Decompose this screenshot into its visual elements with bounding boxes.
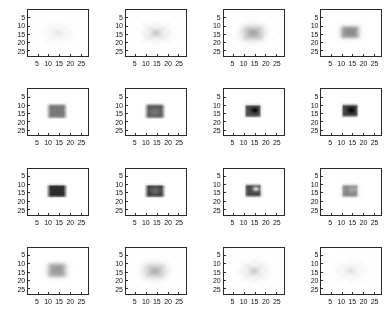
x-tick-mark	[363, 54, 364, 56]
image-panel: 510152025510152025	[293, 0, 391, 79]
y-tick-mark	[224, 42, 226, 43]
y-tick-label: 15	[213, 110, 221, 117]
y-axis-tick-labels: 510152025	[2, 88, 25, 136]
x-tick-label: 10	[44, 139, 52, 146]
axes: 510152025510152025	[223, 168, 285, 216]
x-tick-label: 15	[349, 60, 357, 67]
axes: 510152025510152025	[125, 247, 187, 295]
x-tick-mark	[265, 133, 266, 135]
x-tick-label: 10	[240, 298, 248, 305]
axes-frame	[320, 88, 382, 136]
x-tick-label: 10	[142, 298, 150, 305]
axes: 510152025510152025	[223, 247, 285, 295]
axes-frame	[125, 247, 187, 295]
y-tick-label: 20	[17, 197, 25, 204]
y-tick-mark	[224, 184, 226, 185]
x-tick-label: 20	[164, 139, 172, 146]
x-tick-mark	[168, 213, 169, 215]
x-tick-mark	[276, 292, 277, 294]
axes: 510152025510152025	[320, 9, 382, 57]
y-tick-label: 20	[115, 197, 123, 204]
y-tick-mark	[321, 184, 323, 185]
y-tick-mark	[126, 26, 128, 27]
x-axis-tick-labels: 510152025	[320, 57, 382, 71]
x-tick-mark	[331, 133, 332, 135]
heatmap-image	[224, 169, 284, 215]
y-tick-label: 15	[311, 30, 319, 37]
y-tick-mark	[28, 184, 30, 185]
y-tick-mark	[126, 130, 128, 131]
x-tick-label: 5	[328, 298, 332, 305]
y-tick-mark	[28, 17, 30, 18]
y-tick-mark	[28, 192, 30, 193]
y-tick-mark	[224, 50, 226, 51]
y-tick-mark	[126, 288, 128, 289]
x-tick-mark	[81, 133, 82, 135]
x-tick-label: 10	[240, 219, 248, 226]
y-tick-label: 20	[213, 277, 221, 284]
y-tick-mark	[321, 272, 323, 273]
y-tick-label: 20	[17, 277, 25, 284]
y-tick-mark	[224, 201, 226, 202]
y-tick-label: 15	[213, 30, 221, 37]
x-tick-mark	[135, 133, 136, 135]
axes: 510152025510152025	[320, 88, 382, 136]
y-tick-label: 5	[119, 172, 123, 179]
y-tick-mark	[321, 113, 323, 114]
y-tick-mark	[126, 209, 128, 210]
x-tick-mark	[363, 133, 364, 135]
x-axis-tick-labels: 510152025	[223, 57, 285, 71]
image-panel: 510152025510152025	[98, 159, 196, 238]
x-tick-label: 10	[142, 60, 150, 67]
y-tick-label: 10	[311, 180, 319, 187]
y-tick-label: 15	[213, 189, 221, 196]
x-tick-label: 20	[262, 219, 270, 226]
y-tick-label: 5	[119, 92, 123, 99]
x-tick-mark	[81, 54, 82, 56]
x-tick-label: 5	[231, 60, 235, 67]
x-tick-mark	[70, 54, 71, 56]
x-tick-label: 25	[371, 60, 379, 67]
y-tick-label: 10	[115, 101, 123, 108]
y-tick-mark	[224, 280, 226, 281]
y-axis-tick-labels: 510152025	[295, 247, 318, 295]
y-tick-label: 10	[213, 22, 221, 29]
y-tick-label: 10	[17, 260, 25, 267]
y-tick-mark	[28, 176, 30, 177]
axes: 510152025510152025	[125, 168, 187, 216]
x-tick-label: 5	[133, 139, 137, 146]
x-tick-mark	[244, 54, 245, 56]
image-panel: 510152025510152025	[293, 79, 391, 158]
axes-frame	[320, 9, 382, 57]
image-panel: 510152025510152025	[98, 238, 196, 317]
y-tick-label: 5	[314, 13, 318, 20]
x-tick-mark	[374, 133, 375, 135]
axes: 510152025510152025	[320, 168, 382, 216]
x-tick-label: 5	[328, 60, 332, 67]
y-axis-tick-labels: 510152025	[198, 168, 221, 216]
y-axis-tick-labels: 510152025	[198, 9, 221, 57]
axes-frame	[27, 168, 89, 216]
x-tick-mark	[178, 54, 179, 56]
axes: 510152025510152025	[27, 247, 89, 295]
image-panel: 510152025510152025	[0, 238, 98, 317]
y-tick-mark	[224, 97, 226, 98]
y-tick-label: 5	[21, 13, 25, 20]
y-tick-mark	[28, 121, 30, 122]
heatmap-image	[126, 10, 186, 56]
x-tick-mark	[352, 213, 353, 215]
x-axis-tick-labels: 510152025	[223, 295, 285, 309]
x-tick-mark	[374, 213, 375, 215]
y-tick-label: 20	[213, 118, 221, 125]
y-tick-mark	[224, 26, 226, 27]
x-tick-label: 25	[273, 219, 281, 226]
x-tick-label: 10	[44, 60, 52, 67]
y-tick-label: 25	[311, 127, 319, 134]
x-tick-mark	[157, 133, 158, 135]
x-tick-mark	[244, 292, 245, 294]
x-tick-label: 25	[273, 298, 281, 305]
x-tick-mark	[265, 292, 266, 294]
x-tick-mark	[342, 133, 343, 135]
y-tick-mark	[126, 280, 128, 281]
x-tick-mark	[178, 292, 179, 294]
